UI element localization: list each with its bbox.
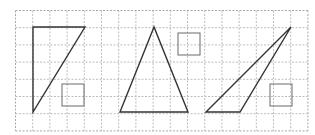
small-square-1 — [62, 84, 84, 106]
obtuse-triangle — [206, 27, 291, 112]
grid-diagram — [0, 0, 315, 135]
shapes-layer — [33, 27, 292, 112]
right-triangle — [33, 27, 85, 112]
small-square-2 — [178, 33, 200, 55]
